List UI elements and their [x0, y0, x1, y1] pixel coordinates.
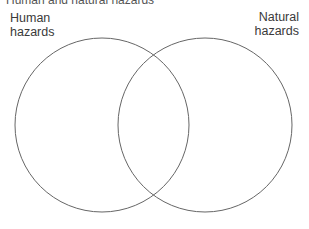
circle-natural-hazards	[118, 38, 292, 212]
circle-human-hazards	[15, 38, 189, 212]
venn-diagram	[0, 0, 309, 229]
